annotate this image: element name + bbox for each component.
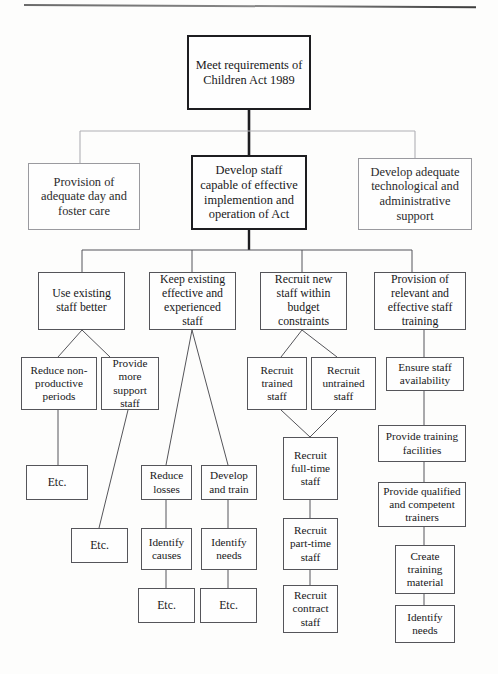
node-recruit-contract-staff[interactable]: Recruit contract staff [283, 585, 338, 633]
node-identify-needs-training-label: Identify needs [399, 611, 451, 637]
node-reduce-losses-label: Reduce losses [145, 469, 188, 495]
link-c1-full [281, 410, 310, 437]
node-recruit-untrained-staff-label: Recruit untrained staff [315, 364, 372, 404]
link-c-c1 [281, 330, 302, 357]
node-etc-identify-needs-label: Etc. [204, 599, 253, 613]
node-etc-identify-causes-label: Etc. [142, 599, 191, 613]
node-recruit-full-time-staff[interactable]: Recruit full-time staff [283, 437, 338, 500]
node-use-existing-staff-better-label: Use existing staff better [42, 287, 121, 315]
node-root[interactable]: Meet requirements of Children Act 1989 [187, 35, 311, 110]
node-recruit-full-time-staff-label: Recruit full-time staff [287, 449, 334, 489]
node-develop-and-train-label: Develop and train [205, 469, 253, 495]
link-a-a2 [82, 330, 110, 357]
node-recruit-untrained-staff[interactable]: Recruit untrained staff [311, 357, 376, 410]
node-recruit-contract-staff-label: Recruit contract staff [287, 589, 334, 629]
node-ensure-staff-availability[interactable]: Ensure staff availability [386, 357, 464, 391]
diagram-page: Meet requirements of Children Act 1989 P… [0, 0, 498, 674]
node-recruit-part-time-staff-label: Recruit part-time staff [287, 524, 334, 564]
node-reduce-non-productive-periods[interactable]: Reduce non-productive periods [21, 357, 97, 410]
link-b-b2 [192, 330, 228, 465]
link-a-a1 [58, 330, 82, 357]
node-create-training-material-label: Create training material [399, 550, 451, 590]
node-provision-day-foster-care-label: Provision of adequate day and foster car… [32, 175, 136, 219]
link-b-b1 [166, 330, 192, 465]
node-develop-tech-admin-support[interactable]: Develop adequate technological and admin… [358, 158, 472, 230]
node-provide-more-support-staff[interactable]: Provide more support staff [101, 357, 159, 410]
link-c-c2 [302, 330, 337, 357]
link-a2-etc [99, 410, 128, 528]
node-reduce-non-productive-periods-label: Reduce non-productive periods [25, 364, 93, 404]
node-identify-causes[interactable]: Identify causes [141, 528, 192, 570]
node-develop-staff[interactable]: Develop staff capable of effective imple… [191, 155, 307, 230]
node-recruit-trained-staff-label: Recruit trained staff [251, 364, 303, 404]
link-c2-full [310, 410, 337, 437]
node-recruit-part-time-staff[interactable]: Recruit part-time staff [283, 518, 338, 570]
node-etc-identify-causes[interactable]: Etc. [138, 588, 195, 623]
node-etc-reduce-nonproductive[interactable]: Etc. [26, 465, 88, 500]
node-provision-staff-training-label: Provision of relevant and effective staf… [378, 273, 462, 329]
node-develop-staff-label: Develop staff capable of effective imple… [196, 163, 302, 222]
node-recruit-new-staff-label: Recruit new staff within budget constrai… [264, 273, 343, 329]
node-recruit-new-staff[interactable]: Recruit new staff within budget constrai… [260, 272, 347, 330]
node-provide-training-facilities-label: Provide training facilities [382, 430, 462, 456]
node-etc-identify-needs[interactable]: Etc. [200, 588, 257, 623]
node-identify-needs-train[interactable]: Identify needs [201, 528, 257, 570]
page-top-rule [24, 4, 476, 8]
node-provide-qualified-trainers[interactable]: Provide qualified and competent trainers [378, 482, 466, 527]
node-root-label: Meet requirements of Children Act 1989 [192, 58, 306, 87]
node-develop-tech-admin-support-label: Develop adequate technological and admin… [362, 165, 468, 224]
node-keep-existing-staff[interactable]: Keep existing effective and experienced … [149, 272, 236, 330]
node-keep-existing-staff-label: Keep existing effective and experienced … [153, 273, 232, 329]
node-use-existing-staff-better[interactable]: Use existing staff better [38, 272, 125, 330]
node-identify-needs-train-label: Identify needs [205, 536, 253, 562]
node-create-training-material[interactable]: Create training material [395, 545, 455, 594]
node-provide-training-facilities[interactable]: Provide training facilities [378, 425, 466, 462]
node-reduce-losses[interactable]: Reduce losses [141, 465, 192, 500]
node-identify-needs-training[interactable]: Identify needs [395, 605, 455, 643]
node-develop-and-train[interactable]: Develop and train [201, 465, 257, 500]
node-etc-reduce-nonproductive-label: Etc. [30, 476, 84, 490]
node-provision-staff-training[interactable]: Provision of relevant and effective staf… [374, 272, 466, 330]
node-ensure-staff-availability-label: Ensure staff availability [390, 361, 460, 387]
node-etc-support-staff[interactable]: Etc. [71, 528, 128, 563]
node-provision-day-foster-care[interactable]: Provision of adequate day and foster car… [28, 163, 140, 230]
node-provide-qualified-trainers-label: Provide qualified and competent trainers [382, 485, 462, 525]
node-provide-more-support-staff-label: Provide more support staff [105, 357, 155, 410]
node-recruit-trained-staff[interactable]: Recruit trained staff [247, 357, 307, 410]
node-identify-causes-label: Identify causes [145, 536, 188, 562]
node-etc-support-staff-label: Etc. [75, 539, 124, 553]
